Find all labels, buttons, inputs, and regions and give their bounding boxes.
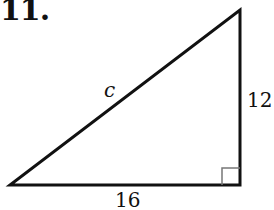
vertical-leg-label: 12 bbox=[247, 88, 272, 112]
right-angle-marker bbox=[222, 168, 240, 185]
right-triangle bbox=[0, 0, 274, 210]
hypotenuse-label: c bbox=[104, 78, 115, 102]
horizontal-leg-label: 16 bbox=[115, 188, 140, 210]
